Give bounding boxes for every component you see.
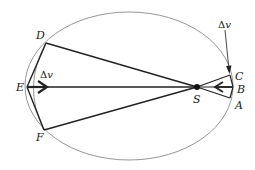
label-d: D xyxy=(35,29,45,42)
v-symbol: v xyxy=(47,69,53,80)
delta-v-arrow-b xyxy=(215,82,232,92)
label-f: F xyxy=(35,131,44,144)
label-e: E xyxy=(15,81,24,94)
label-b: B xyxy=(236,83,245,96)
label-s: S xyxy=(193,93,201,106)
delta-v-label-upper: Δv xyxy=(218,19,231,30)
delta-symbol: Δ xyxy=(40,69,47,80)
focus-s-dot xyxy=(194,84,200,90)
v-symbol: v xyxy=(225,19,231,30)
orbit-diagram: D E F C B A S Δv Δv xyxy=(0,0,255,170)
delta-v-arrow-c xyxy=(225,30,232,74)
delta-v-label-left: Δv xyxy=(40,69,53,80)
line-s-to-f xyxy=(44,87,197,130)
orbit-ellipse xyxy=(25,12,233,160)
line-s-to-d xyxy=(46,43,197,87)
line-s-to-c xyxy=(197,75,230,87)
delta-symbol: Δ xyxy=(218,19,225,30)
delta-v-arrow-e xyxy=(28,81,47,93)
label-a: A xyxy=(234,99,243,112)
line-s-to-a xyxy=(197,87,230,98)
label-c: C xyxy=(235,70,244,83)
chord-d-e xyxy=(27,43,46,87)
